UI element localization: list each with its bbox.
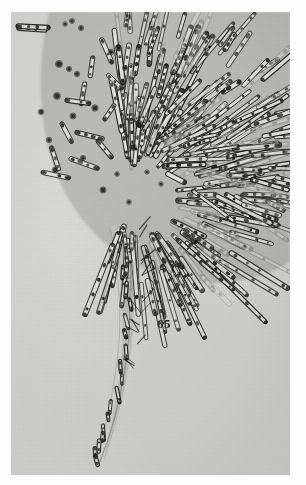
- plate-sheet: 65: [0, 0, 306, 485]
- photographic-print-area: [11, 12, 290, 475]
- figure-number-label: 65: [157, 316, 171, 332]
- micrograph-illustration: [11, 12, 290, 475]
